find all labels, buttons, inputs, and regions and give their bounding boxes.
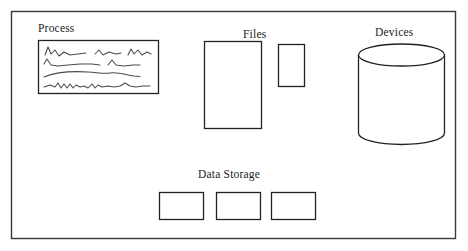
process-label: Process (38, 22, 75, 34)
data-storage-label: Data Storage (198, 168, 260, 180)
storage-rect-3 (272, 193, 316, 220)
file-rect-large (205, 42, 262, 129)
devices-group (359, 44, 445, 145)
file-rect-small (279, 45, 305, 87)
data-storage-group (160, 193, 316, 220)
files-group (205, 42, 305, 129)
storage-rect-2 (217, 193, 261, 220)
files-label: Files (243, 28, 266, 40)
device-cylinder-body (359, 55, 445, 145)
device-cylinder-top (359, 44, 445, 66)
devices-label: Devices (375, 26, 413, 38)
storage-rect-1 (160, 193, 204, 220)
process-group (39, 41, 159, 94)
diagram-canvas: Process Files Devices Data Storage (0, 0, 468, 251)
